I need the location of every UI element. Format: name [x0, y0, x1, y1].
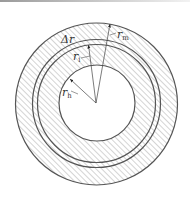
annulus-diagram: Δr rm ri rh	[0, 0, 190, 200]
hole-circle	[59, 65, 135, 141]
delta-r-label: Δr	[60, 33, 75, 46]
